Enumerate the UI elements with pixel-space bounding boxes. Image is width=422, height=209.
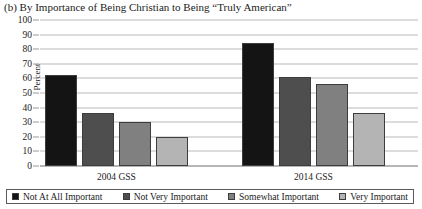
- y-tick-mark: [33, 93, 39, 94]
- y-tick-label: 70: [23, 59, 33, 69]
- chart-legend: Not At All ImportantNot Very ImportantSo…: [6, 189, 414, 204]
- legend-swatch-icon: [339, 193, 346, 200]
- y-tick-label: 30: [23, 117, 33, 127]
- y-tick-mark: [33, 151, 39, 152]
- x-axis-group-label: 2014 GSS: [294, 172, 333, 182]
- y-tick-label: 100: [18, 15, 32, 25]
- y-tick-label: 80: [23, 44, 33, 54]
- y-tick-mark: [33, 136, 39, 137]
- bar: [242, 43, 274, 166]
- legend-label: Somewhat Important: [239, 192, 319, 202]
- x-axis-group-label: 2004 GSS: [97, 172, 136, 182]
- y-tick-mark: [33, 49, 39, 50]
- bar: [156, 137, 188, 166]
- legend-item: Not At All Important: [12, 192, 102, 202]
- legend-item: Very Important: [339, 192, 408, 202]
- legend-label: Not Very Important: [134, 192, 208, 202]
- chart-title: (b) By Importance of Being Christian to …: [4, 1, 292, 14]
- legend-swatch-icon: [12, 193, 19, 200]
- legend-swatch-icon: [123, 193, 130, 200]
- legend-swatch-icon: [228, 193, 235, 200]
- bar: [279, 77, 311, 166]
- y-tick-label: 90: [23, 30, 33, 40]
- y-tick-mark: [33, 34, 39, 35]
- bars-layer: [40, 20, 418, 166]
- legend-item: Somewhat Important: [228, 192, 319, 202]
- legend-label: Very Important: [350, 192, 408, 202]
- bar: [82, 113, 114, 166]
- y-tick-mark: [33, 122, 39, 123]
- legend-label: Not At All Important: [23, 192, 102, 202]
- bar-chart-figure: (b) By Importance of Being Christian to …: [0, 0, 422, 209]
- y-tick-mark: [33, 166, 39, 167]
- y-tick-mark: [33, 107, 39, 108]
- y-tick-label: 40: [23, 103, 33, 113]
- bar: [119, 122, 151, 166]
- bar: [316, 84, 348, 166]
- y-tick-label: 20: [23, 132, 33, 142]
- y-tick-label: 0: [27, 161, 32, 171]
- y-tick-mark: [33, 63, 39, 64]
- y-tick-label: 10: [23, 146, 33, 156]
- legend-item: Not Very Important: [123, 192, 208, 202]
- plot-area: Percent 0102030405060708090100 2004 GSS2…: [40, 20, 418, 166]
- bar: [45, 75, 77, 166]
- bar: [353, 113, 385, 166]
- y-tick-label: 50: [23, 88, 33, 98]
- y-tick-label: 60: [23, 73, 33, 83]
- y-tick-mark: [33, 78, 39, 79]
- y-tick-mark: [33, 20, 39, 21]
